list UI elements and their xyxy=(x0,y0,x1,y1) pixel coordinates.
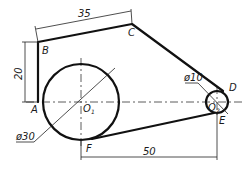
o2-subscript: 2 xyxy=(216,107,220,114)
dim-20-label: 20 xyxy=(13,67,24,80)
o2-main: O xyxy=(208,102,216,113)
technical-drawing: 35 20 50 ø30 ø10 A B C D E F O1 O2 xyxy=(0,0,251,170)
o1-subscript: 1 xyxy=(91,108,95,115)
point-f-label: F xyxy=(86,143,92,154)
point-b-label: B xyxy=(42,45,49,56)
point-a-label: A xyxy=(30,104,38,115)
dim-50-label: 50 xyxy=(143,146,156,157)
dim-35-ext-c xyxy=(131,9,132,24)
point-c-label: C xyxy=(128,27,135,38)
o1-main: O xyxy=(83,103,91,114)
point-o1-label: O1 xyxy=(83,103,95,115)
point-e-label: E xyxy=(219,115,226,126)
dim-phi10-label: ø10 xyxy=(183,72,203,83)
point-d-label: D xyxy=(229,82,237,93)
dim-35-label: 35 xyxy=(78,8,91,19)
leader-phi30 xyxy=(34,68,115,142)
dim-phi30-label: ø30 xyxy=(15,131,35,142)
